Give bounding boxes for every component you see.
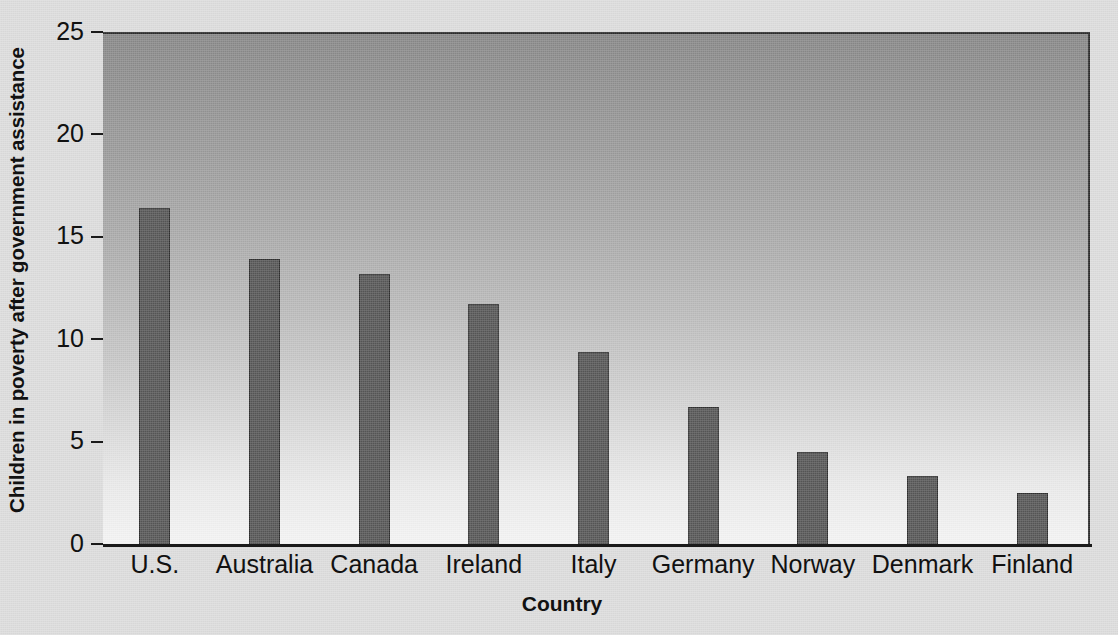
x-axis-line (103, 544, 1092, 547)
y-axis-title-text: Children in poverty after government ass… (5, 47, 29, 513)
bar-denmark (907, 476, 938, 544)
x-tick-label-italy: Italy (571, 550, 617, 578)
x-tick-label-norway: Norway (770, 550, 855, 578)
bar-u-s (139, 208, 170, 544)
x-tick-label-australia: Australia (216, 550, 313, 578)
y-axis-ticks: 0510152025 (40, 0, 103, 635)
y-tick-label: 15 (56, 223, 91, 248)
bar-australia (249, 259, 280, 544)
y-tick-label: 20 (56, 121, 91, 146)
bar-germany (688, 407, 719, 544)
y-tick-mark (91, 543, 103, 545)
x-axis-title: Country (0, 592, 1118, 616)
y-tick-label: 5 (70, 428, 91, 453)
bar-canada (359, 274, 390, 544)
y-tick-label: 25 (56, 19, 91, 44)
y-axis-title: Children in poverty after government ass… (0, 0, 34, 560)
bar-finland (1017, 493, 1048, 544)
chart-figure: Children in poverty after government ass… (0, 0, 1118, 635)
x-tick-label-u-s: U.S. (131, 550, 180, 578)
x-tick-label-denmark: Denmark (872, 550, 973, 578)
y-tick-mark (91, 441, 103, 443)
y-tick-mark (91, 338, 103, 340)
bar-norway (797, 452, 828, 544)
plot-area (103, 32, 1090, 544)
bar-italy (578, 352, 609, 545)
y-tick-mark (91, 31, 103, 33)
x-axis-title-text: Country (522, 592, 603, 615)
x-tick-label-finland: Finland (991, 550, 1073, 578)
bar-ireland (468, 304, 499, 544)
y-tick-label: 0 (70, 531, 91, 556)
y-tick-label: 10 (56, 326, 91, 351)
y-tick-mark (91, 133, 103, 135)
bars-layer (103, 34, 1088, 544)
x-tick-label-canada: Canada (330, 550, 418, 578)
x-tick-label-germany: Germany (652, 550, 755, 578)
x-axis-ticks: U.S.AustraliaCanadaIrelandItalyGermanyNo… (103, 550, 1090, 590)
y-tick-mark (91, 236, 103, 238)
x-tick-label-ireland: Ireland (446, 550, 522, 578)
